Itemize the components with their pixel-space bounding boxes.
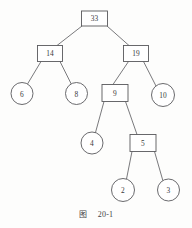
binary-tree-diagram: 33 14 19 6 8 9 — [0, 0, 192, 228]
node-6: 6 — [11, 83, 33, 105]
edge-9-4 — [96, 102, 105, 133]
node-9-label: 9 — [113, 89, 117, 98]
node-6-label: 6 — [20, 90, 24, 99]
edge-9-5 — [126, 102, 138, 135]
edge-14-6 — [28, 62, 42, 85]
edge-14-8 — [60, 62, 72, 85]
node-9: 9 — [102, 85, 128, 102]
node-5-label: 5 — [141, 139, 145, 148]
node-14-label: 14 — [46, 49, 54, 58]
node-2-label: 2 — [121, 186, 125, 195]
node-4: 4 — [81, 132, 103, 154]
edge-5-2 — [127, 152, 133, 180]
node-8: 8 — [66, 83, 88, 105]
edge-33-19 — [107, 26, 129, 46]
node-group: 33 14 19 6 8 9 — [11, 11, 180, 202]
edge-19-9 — [113, 62, 129, 85]
node-33: 33 — [82, 11, 108, 26]
figure-caption-cjk: 图 — [79, 210, 87, 219]
node-14: 14 — [38, 46, 63, 62]
figure-container: 33 14 19 6 8 9 — [0, 0, 192, 228]
edge-33-14 — [57, 26, 82, 46]
node-10: 10 — [152, 84, 175, 107]
node-3: 3 — [158, 179, 180, 201]
edge-19-10 — [144, 62, 157, 87]
figure-caption: 图20-1 — [0, 208, 192, 219]
node-33-label: 33 — [91, 14, 99, 23]
node-2: 2 — [112, 179, 135, 202]
node-19-label: 19 — [132, 49, 140, 58]
node-3-label: 3 — [167, 186, 171, 195]
edge-5-3 — [155, 152, 164, 182]
figure-caption-number: 20-1 — [98, 210, 113, 219]
node-8-label: 8 — [75, 90, 79, 99]
node-19: 19 — [124, 46, 149, 62]
node-5: 5 — [130, 135, 156, 152]
node-4-label: 4 — [90, 139, 94, 148]
node-10-label: 10 — [159, 91, 167, 100]
